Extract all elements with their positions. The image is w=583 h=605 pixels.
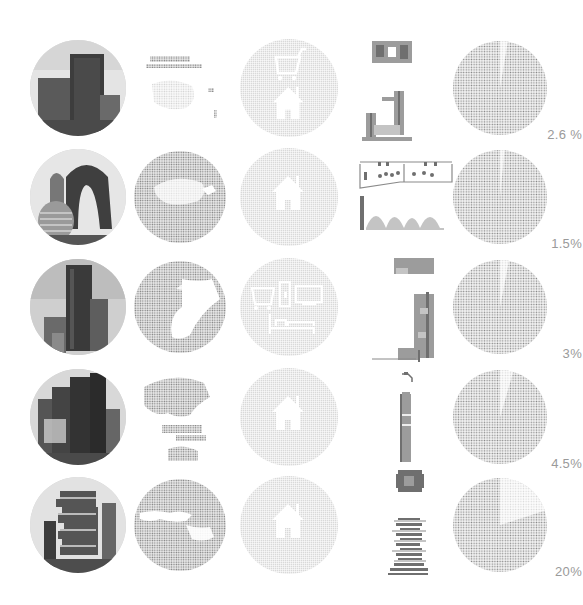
- building-drawing: [352, 142, 432, 252]
- building-drawing: [352, 252, 432, 362]
- infographic-row: 4.5%: [0, 362, 583, 472]
- infographic-row: 1.5%: [0, 142, 583, 252]
- infographic-row: 3%: [0, 252, 583, 362]
- globe-region-map: [132, 259, 228, 355]
- infographic-row: 2.6 %: [0, 33, 583, 143]
- percentage-pie: [452, 477, 548, 573]
- percentage-pie: [452, 40, 548, 136]
- function-icons-circle: [240, 148, 338, 246]
- building-drawing: [352, 33, 432, 143]
- percentage-label: 3%: [520, 346, 582, 361]
- infographic-row: 20%: [0, 470, 583, 580]
- building-drawing: [352, 362, 432, 472]
- building-drawing: [352, 470, 432, 580]
- globe-region-map: [132, 149, 228, 245]
- function-icons-circle: [240, 258, 338, 356]
- building-photo: [30, 477, 126, 573]
- percentage-label: 20%: [520, 564, 582, 579]
- percentage-pie: [452, 369, 548, 465]
- function-icons-circle: [240, 368, 338, 466]
- building-photo: [30, 40, 126, 136]
- percentage-label: 4.5%: [520, 456, 582, 471]
- globe-region-map: [132, 40, 228, 136]
- building-photo: [30, 149, 126, 245]
- percentage-label: 2.6 %: [520, 127, 582, 142]
- globe-region-map: [132, 369, 228, 465]
- percentage-pie: [452, 149, 548, 245]
- building-photo: [30, 369, 126, 465]
- percentage-pie: [452, 259, 548, 355]
- percentage-label: 1.5%: [520, 236, 582, 251]
- building-photo: [30, 259, 126, 355]
- function-icons-circle: [240, 476, 338, 574]
- globe-region-map: [132, 477, 228, 573]
- function-icons-circle: [240, 39, 338, 137]
